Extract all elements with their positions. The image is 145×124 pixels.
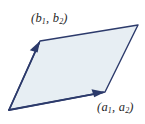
vector-b-first-subscript: 1: [42, 17, 46, 26]
vector-a-first-subscript: 1: [108, 106, 112, 115]
vector-b-close-paren: ): [63, 11, 67, 25]
vector-a-separator: ,: [112, 100, 119, 114]
vector-a-first-component: a: [101, 100, 107, 114]
vector-b-separator: ,: [46, 11, 53, 25]
vector-a-second-subscript: 2: [125, 106, 129, 115]
vector-parallelogram-figure: (b1, b2) (a1, a2): [0, 0, 145, 124]
vector-b-label: (b1, b2): [31, 12, 68, 25]
vector-b-second-subscript: 2: [59, 17, 63, 26]
vector-b-first-component: b: [35, 11, 41, 25]
vector-a-close-paren: ): [129, 100, 133, 114]
vector-a-label: (a1, a2): [97, 101, 134, 114]
